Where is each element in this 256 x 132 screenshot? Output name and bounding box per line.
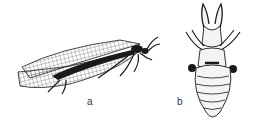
insect-illustration: a b xyxy=(0,0,256,132)
panel-label-b: b xyxy=(177,97,183,107)
panel-label-a: a xyxy=(87,97,93,107)
bristle-tuft-left xyxy=(188,64,196,72)
larva-drawing xyxy=(0,0,256,132)
larva-head xyxy=(202,26,222,47)
mandibles xyxy=(202,4,223,28)
